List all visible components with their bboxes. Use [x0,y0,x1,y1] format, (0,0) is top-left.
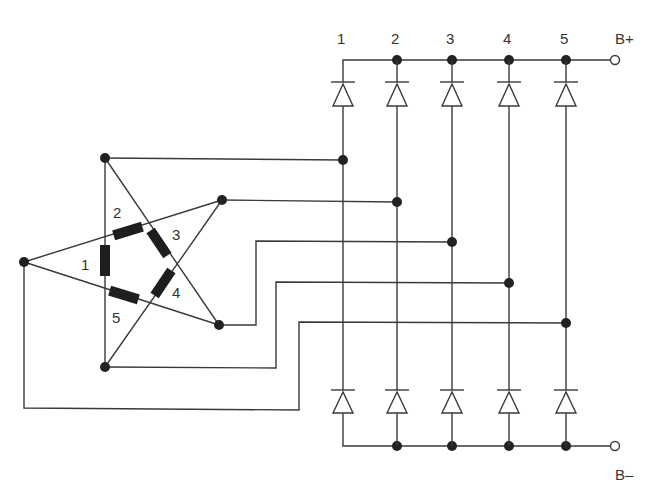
column-label-5: 5 [560,30,568,47]
winding-label-5: 5 [112,309,120,326]
diode-icon [554,82,578,106]
negative-bus [343,413,620,451]
winding-label-2: 2 [113,204,121,221]
pentagram-windings: 1 2 3 4 5 [24,158,222,367]
diode-icon [497,82,521,106]
column-label-4: 4 [503,30,511,47]
column-label-2: 2 [391,30,399,47]
diode-icon [385,82,409,106]
diode-icon [385,390,409,413]
winding-1 [100,245,110,276]
terminal-label-negative: B– [615,466,634,483]
column-label-1: 1 [337,30,345,47]
diode-icon [331,390,355,413]
diode-icon [554,390,578,413]
winding-3 [146,228,171,258]
positive-terminal [611,56,620,65]
winding-5 [108,286,140,304]
terminal-label-positive: B+ [615,30,634,47]
phase-columns [343,106,566,390]
diode-icon [440,82,464,106]
winding-label-1: 1 [81,256,89,273]
lower-diodes [331,390,578,413]
diode-icon [440,390,464,413]
rectifier-schematic: 1 2 3 4 5 B+ B– [0,0,667,493]
star-vertices [19,153,227,372]
negative-terminal [611,442,620,451]
diode-icon [497,390,521,413]
positive-bus [343,55,620,82]
winding-2 [112,222,144,240]
column-label-3: 3 [446,30,454,47]
winding-label-3: 3 [172,226,180,243]
winding-label-4: 4 [172,284,180,301]
diode-icon [331,82,355,106]
upper-diodes [331,82,578,106]
